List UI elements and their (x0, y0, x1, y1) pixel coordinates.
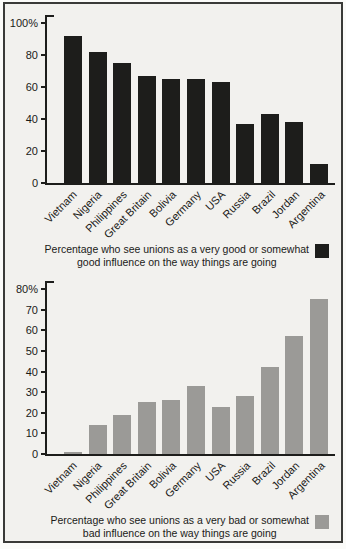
x-label-slot-germany: Germany (183, 456, 208, 512)
bar-great-britain (138, 76, 156, 183)
good-influence-legend-text: Percentage who see unions as a very good… (45, 243, 309, 269)
bad-influence-x-labels: VietnamNigeriaPhilippinesGreat BritainBo… (45, 456, 335, 512)
y-axis-tick-40 (41, 118, 47, 120)
x-axis-label-vietnam: Vietnam (43, 189, 79, 225)
bar-bolivia (162, 400, 180, 454)
good-influence-legend: Percentage who see unions as a very good… (25, 243, 329, 269)
legend-text-line-1: Percentage who see unions as a very good… (45, 243, 309, 256)
good-influence-x-labels: VietnamNigeriaPhilippinesGreat BritainBo… (45, 185, 335, 241)
x-label-slot-argentina: Argentina (306, 185, 331, 241)
bar-slot-jordan (282, 15, 307, 183)
bar-argentina (310, 299, 328, 454)
y-axis-tick-60 (41, 86, 47, 88)
bar-slot-germany (184, 15, 209, 183)
y-axis-label-40: 40 (4, 113, 38, 125)
bar-slot-russia (233, 15, 258, 183)
y-axis-tick-60 (41, 329, 47, 331)
bar-argentina (310, 164, 328, 183)
bar-philippines (113, 63, 131, 183)
y-axis-label-100: 100% (4, 17, 38, 29)
y-axis-tick-20 (41, 412, 47, 414)
x-label-slot-argentina: Argentina (306, 456, 331, 512)
bar-bolivia (162, 79, 180, 183)
bar-jordan (285, 336, 303, 454)
x-label-slot-russia: Russia (232, 185, 257, 241)
y-axis-label-10: 10 (4, 427, 38, 439)
y-axis-label-20: 20 (4, 407, 38, 419)
bar-slot-germany (184, 281, 209, 454)
bad-influence-bars (47, 281, 335, 454)
x-label-slot-russia: Russia (232, 456, 257, 512)
bar-slot-jordan (282, 281, 307, 454)
y-axis-tick-0 (41, 453, 47, 455)
bar-brazil (261, 367, 279, 454)
y-axis-label-40: 40 (4, 366, 38, 378)
bar-usa (212, 82, 230, 183)
bar-slot-philippines (110, 15, 135, 183)
y-axis-label-60: 60 (4, 81, 38, 93)
bar-germany (187, 79, 205, 183)
bar-slot-russia (233, 281, 258, 454)
y-axis-tick-50 (41, 350, 47, 352)
x-axis-label-vietnam: Vietnam (43, 460, 79, 496)
bar-russia (236, 396, 254, 454)
bad-influence-chart: 80%706050403020100 VietnamNigeriaPhilipp… (5, 281, 341, 540)
y-axis-label-60: 60 (4, 324, 38, 336)
y-axis-tick-20 (41, 150, 47, 152)
bar-jordan (285, 122, 303, 183)
bad-influence-legend: Percentage who see unions as a very bad … (25, 514, 329, 540)
bar-slot-bolivia (159, 281, 184, 454)
bar-slot-philippines (110, 281, 135, 454)
bar-slot-brazil (257, 15, 282, 183)
bar-slot-nigeria (86, 281, 111, 454)
y-axis-label-70: 70 (4, 304, 38, 316)
legend-text-line-1: Percentage who see unions as a very bad … (50, 514, 309, 527)
legend-text-line-2: bad influence on the way things are goin… (50, 527, 309, 540)
bar-usa (212, 407, 230, 454)
bar-nigeria (89, 52, 107, 183)
bar-philippines (113, 415, 131, 454)
bar-slot-argentina (306, 15, 331, 183)
bar-great-britain (138, 402, 156, 454)
bar-slot-great-britain (135, 15, 160, 183)
bar-nigeria (89, 425, 107, 454)
bar-slot-argentina (306, 281, 331, 454)
bar-slot-bolivia (159, 15, 184, 183)
y-axis-label-20: 20 (4, 145, 38, 157)
bar-brazil (261, 114, 279, 183)
y-axis-label-80: 80 (4, 49, 38, 61)
y-axis-tick-40 (41, 371, 47, 373)
gray-legend-swatch (315, 515, 329, 529)
good-influence-bars (47, 15, 335, 183)
bar-russia (236, 124, 254, 183)
bar-vietnam (64, 36, 82, 183)
y-axis-tick-70 (41, 309, 47, 311)
bar-slot-usa (208, 281, 233, 454)
black-legend-swatch (315, 244, 329, 258)
y-axis-label-0: 0 (4, 177, 38, 189)
bar-slot-usa (208, 15, 233, 183)
bad-influence-plot-area: 80%706050403020100 (45, 281, 335, 456)
bar-slot-vietnam (61, 281, 86, 454)
legend-text-line-2: good influence on the way things are goi… (45, 256, 309, 269)
good-influence-chart: 100%806040200 VietnamNigeriaPhilippinesG… (5, 15, 341, 269)
bad-influence-legend-text: Percentage who see unions as a very bad … (50, 514, 309, 540)
y-axis-tick-30 (41, 391, 47, 393)
y-axis-label-30: 30 (4, 386, 38, 398)
y-axis-label-0: 0 (4, 448, 38, 460)
bar-slot-brazil (257, 281, 282, 454)
bar-slot-nigeria (86, 15, 111, 183)
y-axis-tick-80 (41, 54, 47, 56)
bar-slot-vietnam (61, 15, 86, 183)
good-influence-plot-area: 100%806040200 (45, 15, 335, 185)
x-label-slot-germany: Germany (183, 185, 208, 241)
y-axis-tick-10 (41, 432, 47, 434)
y-axis-tick-100 (41, 22, 47, 24)
y-axis-label-50: 50 (4, 345, 38, 357)
bar-vietnam (64, 452, 82, 454)
y-axis-label-80: 80% (4, 283, 38, 295)
bar-germany (187, 386, 205, 454)
y-axis-tick-0 (41, 182, 47, 184)
y-axis-tick-80 (41, 288, 47, 290)
figure-frame: 100%806040200 VietnamNigeriaPhilippinesG… (3, 2, 343, 543)
